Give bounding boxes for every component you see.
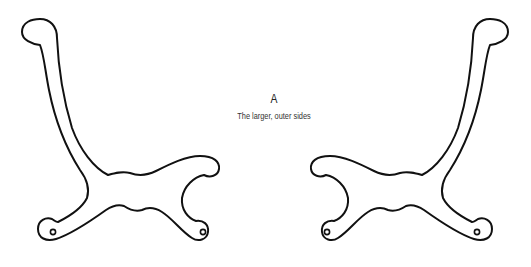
diagram-canvas [0, 0, 531, 267]
left-side-outline [22, 19, 219, 240]
left-side-piece [22, 19, 219, 240]
right-side-piece [311, 19, 508, 240]
right-side-outline [311, 19, 508, 240]
figure-caption: The larger, outer sides [225, 111, 323, 121]
figure-label: A [250, 91, 298, 106]
